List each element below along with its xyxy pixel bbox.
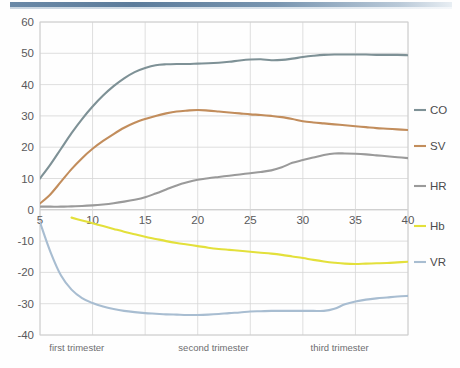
y-axis-tick-label: 50 bbox=[21, 47, 34, 59]
series-group bbox=[40, 55, 408, 315]
y-axis-tick-label: 10 bbox=[21, 173, 34, 185]
legend-label-hr[interactable]: HR bbox=[430, 180, 447, 192]
chart-page: 6050403020100-10-20-30-40510152025303540… bbox=[0, 0, 460, 368]
trimester-label: first trimester bbox=[49, 342, 104, 353]
y-axis-tick-label: -30 bbox=[17, 298, 34, 310]
y-axis-tick-label: -20 bbox=[17, 266, 34, 278]
y-axis-tick-label: 30 bbox=[21, 110, 34, 122]
x-axis-tick-label: 35 bbox=[349, 214, 362, 226]
x-axis-tick-label: 40 bbox=[402, 214, 415, 226]
chart-canvas: 6050403020100-10-20-30-40510152025303540… bbox=[0, 0, 460, 368]
y-axis-tick-label: -40 bbox=[17, 329, 34, 341]
x-axis-tick-label: 15 bbox=[139, 214, 152, 226]
series-line-hr bbox=[40, 153, 408, 206]
series-line-sv bbox=[40, 110, 408, 204]
series-line-co bbox=[40, 55, 408, 179]
y-axis-tick-label: 0 bbox=[28, 204, 34, 216]
y-axis-tick-label: 20 bbox=[21, 141, 34, 153]
y-axis-tick-label: 60 bbox=[21, 16, 34, 28]
y-axis-tick-label: -10 bbox=[17, 235, 34, 247]
line-chart: 6050403020100-10-20-30-40510152025303540… bbox=[0, 0, 460, 368]
trimester-label: third trimester bbox=[311, 342, 369, 353]
legend-label-sv[interactable]: SV bbox=[430, 140, 446, 152]
series-line-vr bbox=[40, 222, 408, 315]
x-axis-tick-label: 20 bbox=[191, 214, 204, 226]
x-axis-tick-label: 30 bbox=[296, 214, 309, 226]
x-axis-tick-label: 25 bbox=[244, 214, 257, 226]
trimester-label: second trimester bbox=[178, 342, 248, 353]
legend-label-co[interactable]: CO bbox=[430, 104, 447, 116]
legend-label-hb[interactable]: Hb bbox=[430, 220, 445, 232]
y-axis-tick-label: 40 bbox=[21, 79, 34, 91]
legend-label-vr[interactable]: VR bbox=[430, 256, 446, 268]
